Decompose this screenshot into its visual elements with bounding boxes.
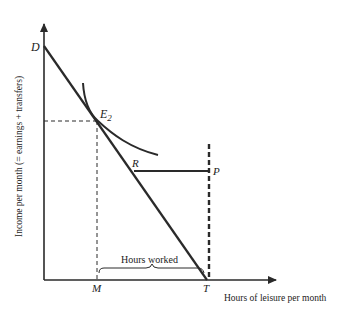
hours-worked-label: Hours worked <box>121 254 178 265</box>
budget-line-DT <box>44 46 207 280</box>
labor-supply-diagram: D E2 R P M T Hours worked Hours of leisu… <box>0 0 346 316</box>
label-T: T <box>203 282 210 294</box>
y-axis-label: Income per month (= earnings + transfers… <box>14 76 25 237</box>
label-P: P <box>212 165 220 177</box>
hours-worked-brace <box>99 264 204 273</box>
label-M: M <box>91 282 102 294</box>
label-D: D <box>30 40 40 54</box>
label-R: R <box>131 157 139 169</box>
label-E2: E2 <box>99 107 112 123</box>
x-axis-label: Hours of leisure per month <box>224 293 327 303</box>
